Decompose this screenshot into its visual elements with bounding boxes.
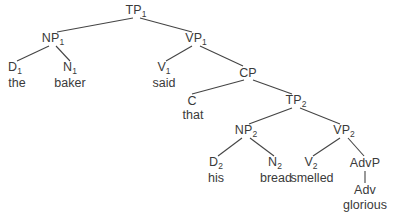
- node-subscript: 1: [202, 37, 207, 47]
- tree-edge: [348, 138, 364, 156]
- tree-leaf-baker: baker: [54, 77, 85, 90]
- tree-leaf-glorious: glorious: [343, 199, 387, 212]
- node-subscript: 2: [252, 129, 257, 139]
- tree-edge: [250, 138, 274, 156]
- node-subscript: 2: [302, 99, 307, 109]
- tree-node-tp2: TP2: [286, 94, 307, 109]
- node-label: NP: [42, 31, 60, 45]
- syntax-tree-diagram: TP1NP1VP1D1N1V1CPCTP2NP2VP2D2N2V2AdvPAdv…: [0, 0, 396, 216]
- node-label: D: [8, 60, 17, 74]
- tree-edge: [166, 46, 192, 61]
- tree-node-n2: N2: [268, 156, 282, 171]
- node-label: C: [187, 94, 196, 108]
- node-label: Adv: [354, 183, 376, 197]
- node-subscript: 2: [350, 129, 355, 139]
- tree-node-v1: V1: [157, 61, 170, 76]
- tree-node-v2: V2: [304, 156, 317, 171]
- tree-node-c: C: [187, 95, 196, 108]
- tree-node-np1: NP1: [42, 32, 64, 47]
- node-label: AdvP: [350, 156, 380, 170]
- node-subscript: 1: [166, 66, 171, 76]
- tree-leaf-that: that: [183, 109, 204, 122]
- node-label: TP: [286, 93, 302, 107]
- tree-leaf-the: the: [8, 77, 25, 90]
- node-subscript: 1: [17, 66, 22, 76]
- node-subscript: 2: [218, 161, 223, 171]
- node-label: CP: [239, 66, 257, 80]
- tree-leaf-bread: bread: [260, 172, 292, 185]
- tree-node-vp2: VP2: [333, 124, 355, 139]
- node-subscript: 2: [313, 161, 318, 171]
- tree-leaf-smelled: smelled: [290, 172, 333, 185]
- node-subscript: 1: [72, 66, 77, 76]
- tree-node-vp1: VP1: [185, 32, 207, 47]
- tree-edge: [57, 18, 133, 32]
- tree-edge: [17, 46, 49, 61]
- node-label: N: [63, 60, 72, 74]
- node-label: VP: [185, 31, 202, 45]
- tree-node-advp: AdvP: [350, 157, 380, 170]
- tree-edge: [140, 18, 192, 32]
- tree-edge: [249, 108, 292, 124]
- tree-node-cp: CP: [239, 67, 257, 80]
- tree-node-np2: NP2: [235, 124, 257, 139]
- tree-edge: [200, 46, 243, 66]
- node-subscript: 1: [142, 9, 147, 19]
- tree-leaf-his: his: [208, 172, 224, 185]
- tree-edge: [313, 138, 340, 156]
- node-label: D: [209, 155, 218, 169]
- node-label: TP: [126, 3, 142, 17]
- tree-node-d2: D2: [209, 156, 223, 171]
- tree-node-n1: N1: [63, 61, 77, 76]
- node-label: NP: [235, 123, 253, 137]
- node-label: VP: [333, 123, 350, 137]
- tree-edge: [218, 138, 242, 156]
- node-subscript: 2: [277, 161, 282, 171]
- tree-node-d1: D1: [8, 61, 22, 76]
- tree-node-tp1: TP1: [126, 4, 147, 19]
- tree-leaf-said: said: [153, 77, 176, 90]
- tree-edge: [192, 80, 244, 94]
- tree-node-adv: Adv: [354, 184, 376, 197]
- node-label: N: [268, 155, 277, 169]
- node-subscript: 1: [59, 37, 64, 47]
